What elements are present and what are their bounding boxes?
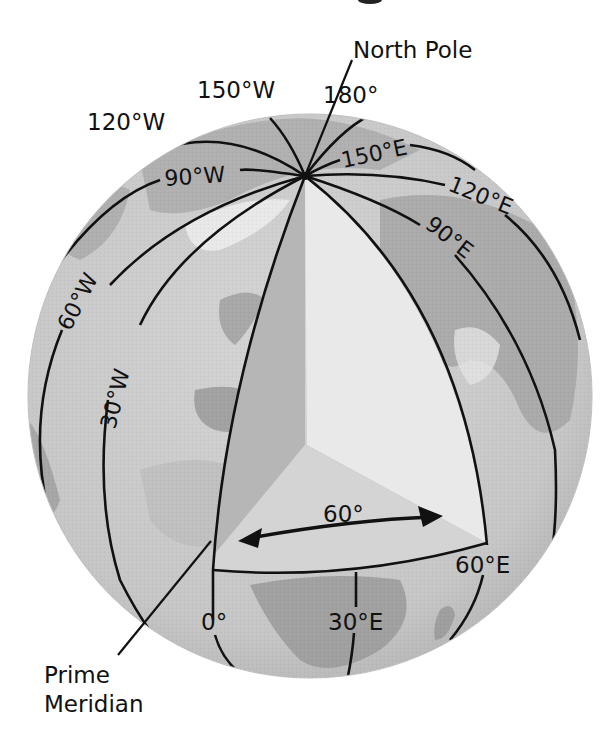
label-90w: 90°W — [164, 162, 227, 191]
angle-label: 60° — [323, 501, 364, 527]
longitude-globe-diagram: 60° North Pole Prime Meridian 150°W 120°… — [0, 0, 616, 731]
label-30e: 30°E — [328, 609, 383, 635]
title-fragment — [358, 0, 382, 4]
north-pole-label: North Pole — [353, 37, 472, 63]
label-60e: 60°E — [455, 552, 510, 578]
label-120w: 120°W — [87, 109, 165, 135]
prime-meridian-label-line1: Prime — [44, 662, 110, 688]
label-150w: 150°W — [197, 77, 275, 103]
label-180: 180° — [323, 82, 378, 108]
prime-meridian-label-line2: Meridian — [44, 691, 144, 717]
label-0: 0° — [201, 609, 227, 635]
